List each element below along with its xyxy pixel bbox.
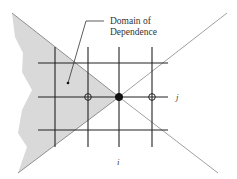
- domain-shaded-region: [12, 13, 119, 173]
- column-label-i: i: [117, 157, 120, 167]
- characteristic-line-lower-right: [119, 97, 218, 173]
- domain-of-dependence-diagram: Domain of Dependence j i: [0, 0, 237, 179]
- row-label-j: j: [175, 92, 179, 102]
- annotation-label-line1: Domain of: [110, 16, 152, 26]
- annotation-dot: [67, 82, 70, 85]
- annotation-label-line2: Dependence: [110, 27, 157, 37]
- center-node: [115, 93, 122, 100]
